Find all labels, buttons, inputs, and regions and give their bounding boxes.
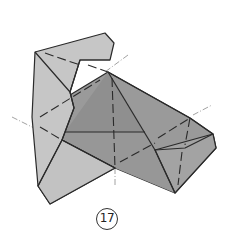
step-number-badge: 17 xyxy=(96,208,118,230)
origami-diagram xyxy=(0,0,239,241)
